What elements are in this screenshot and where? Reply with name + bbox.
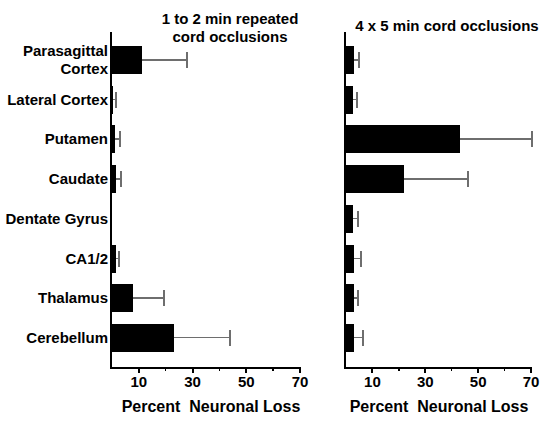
category-label-thalamus: Thalamus bbox=[38, 289, 108, 307]
error-bar-cap bbox=[467, 171, 469, 187]
error-bar-cap bbox=[163, 290, 165, 306]
bar-putamen bbox=[346, 125, 460, 153]
error-bar-line bbox=[174, 337, 230, 339]
error-bar-line bbox=[142, 59, 188, 61]
bar-cerebellum bbox=[112, 324, 174, 352]
error-bar-line bbox=[460, 138, 533, 140]
category-label-dentate-gyrus: Dentate Gyrus bbox=[5, 210, 108, 228]
error-bar-cap bbox=[531, 131, 533, 147]
bar-thalamus bbox=[346, 284, 354, 312]
error-bar-cap bbox=[118, 251, 120, 267]
x-axis-tick-label: 70 bbox=[285, 374, 315, 390]
error-bar-cap bbox=[362, 330, 364, 346]
left-x-axis-title: Percent Neuronal Loss bbox=[122, 398, 301, 416]
bar-parasagittal-cortex bbox=[346, 46, 354, 74]
bar-ca1-2 bbox=[346, 245, 354, 273]
error-bar-cap bbox=[358, 52, 360, 68]
x-axis-minor-tick bbox=[219, 367, 221, 371]
category-label-lateral-cortex: Lateral Cortex bbox=[7, 91, 108, 109]
neuronal-loss-bar-chart-figure: 1 to 2 min repeated cord occlusions 4 x … bbox=[0, 0, 545, 425]
error-bar-cap bbox=[115, 92, 117, 108]
x-axis-tick-label: 50 bbox=[231, 374, 261, 390]
x-axis-tick-label: 30 bbox=[178, 374, 208, 390]
x-axis-minor-tick bbox=[451, 367, 453, 371]
error-bar-line bbox=[404, 178, 467, 180]
bar-dentate-gyrus bbox=[346, 205, 353, 233]
x-axis-minor-tick bbox=[165, 367, 167, 371]
x-axis-tick-label: 70 bbox=[516, 374, 545, 390]
bar-cerebellum bbox=[346, 324, 354, 352]
x-axis-tick-label: 30 bbox=[410, 374, 440, 390]
error-bar-cap bbox=[356, 92, 358, 108]
x-axis-tick-label: 10 bbox=[357, 374, 387, 390]
category-label-ca1-2: CA1/2 bbox=[65, 250, 108, 268]
x-axis-tick-label: 10 bbox=[124, 374, 154, 390]
error-bar-cap bbox=[186, 52, 188, 68]
category-label-cerebellum: Cerebellum bbox=[26, 329, 108, 347]
bar-thalamus bbox=[112, 284, 133, 312]
bar-parasagittal-cortex bbox=[112, 46, 142, 74]
error-bar-cap bbox=[229, 330, 231, 346]
category-label-putamen: Putamen bbox=[45, 130, 108, 148]
right-x-axis-title: Percent Neuronal Loss bbox=[350, 398, 529, 416]
x-axis-minor-tick bbox=[398, 367, 400, 371]
error-bar-cap bbox=[357, 211, 359, 227]
category-label-caudate: Caudate bbox=[49, 170, 108, 188]
bar-lateral-cortex bbox=[346, 86, 353, 114]
error-bar-cap bbox=[120, 171, 122, 187]
error-bar-cap bbox=[360, 251, 362, 267]
left-chart-plot-area: 10305070 bbox=[110, 32, 300, 369]
x-axis-tick-label: 50 bbox=[463, 374, 493, 390]
right-chart-plot-area: 10305070 bbox=[344, 32, 531, 369]
error-bar-cap bbox=[119, 131, 121, 147]
error-bar-cap bbox=[357, 290, 359, 306]
error-bar-line bbox=[133, 297, 164, 299]
x-axis-minor-tick bbox=[272, 367, 274, 371]
bar-caudate bbox=[346, 165, 404, 193]
category-label-parasagittal-cortex: Parasagittal Cortex bbox=[23, 42, 108, 78]
x-axis-minor-tick bbox=[504, 367, 506, 371]
